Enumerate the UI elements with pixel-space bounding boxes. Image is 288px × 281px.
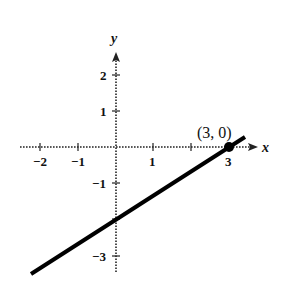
y-tick-label: 2 (100, 68, 107, 83)
y-tick-label: −3 (92, 249, 106, 264)
y-axis-label: y (109, 31, 118, 46)
graph-line (31, 137, 245, 274)
coordinate-graph: y x −2 −1 1 3 2 1 −1 −3 (3, 0) (0, 0, 288, 281)
x-tick-label: −2 (33, 154, 47, 169)
point-label: (3, 0) (197, 124, 232, 142)
point-marker (224, 142, 234, 152)
y-tick-label: 1 (100, 104, 107, 119)
x-tick-label: 3 (225, 154, 232, 169)
plot-canvas: y x −2 −1 1 3 2 1 −1 −3 (3, 0) (0, 0, 288, 281)
y-tick-label: −1 (92, 176, 106, 191)
x-tick-label: −1 (71, 154, 85, 169)
x-axis-label: x (261, 140, 269, 155)
x-tick-label: 1 (149, 154, 156, 169)
